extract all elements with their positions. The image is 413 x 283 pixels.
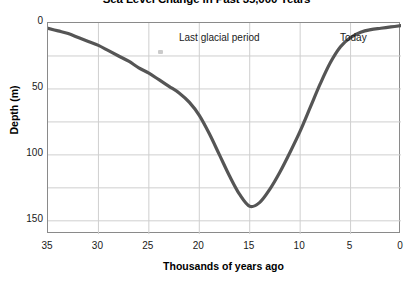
annotation-last-glacial-period: Last glacial period	[179, 32, 260, 43]
plot-area: Last glacial period Today	[47, 22, 400, 233]
x-tick-label: 30	[77, 240, 117, 251]
x-tick-label: 20	[178, 240, 218, 251]
horizontal-gridlines	[48, 56, 401, 221]
vertical-gridlines	[98, 23, 350, 234]
y-tick-label: 50	[3, 81, 43, 92]
sea-level-curve	[48, 26, 401, 207]
x-tick-label: 0	[380, 240, 413, 251]
chart-title: Sea Level Change in Past 35,000 Years	[0, 0, 413, 5]
x-tick-label: 5	[330, 240, 370, 251]
x-tick-label: 10	[279, 240, 319, 251]
x-axis-title: Thousands of years ago	[47, 260, 400, 272]
y-tick-label: 150	[3, 213, 43, 224]
chart-plot-svg	[48, 23, 401, 234]
x-tick-label: 35	[27, 240, 67, 251]
y-tick-label: 100	[3, 147, 43, 158]
y-tick-label: 0	[3, 15, 43, 26]
x-tick-label: 15	[229, 240, 269, 251]
annotation-today: Today	[340, 32, 367, 43]
x-tick-label: 25	[128, 240, 168, 251]
curve-speck-marker	[158, 50, 163, 54]
chart-container: Sea Level Change in Past 35,000 Years De…	[0, 0, 413, 283]
